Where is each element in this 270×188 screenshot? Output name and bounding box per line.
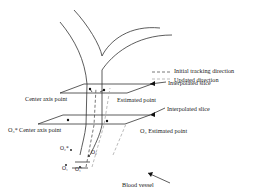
trunk-left — [60, 22, 87, 84]
branch-left-outer — [74, 10, 102, 56]
branch-right-top — [102, 28, 160, 56]
vessel-tracking-diagram: Initial tracking direction Updated direc… — [0, 0, 270, 188]
branch-right-bottom — [102, 35, 172, 70]
label-o1: O₁ — [62, 165, 68, 172]
diagram-drawing — [0, 0, 270, 188]
label-interpolated-slice-mid: Interpolated slice — [167, 105, 210, 112]
label-o1-prime: O₁' — [75, 166, 82, 173]
label-center-axis-point-mid: Center axis point — [19, 126, 61, 133]
label-o2: O₂ — [91, 149, 97, 156]
vessel-left-wall — [80, 84, 87, 155]
label-center-axis-point-top: Center axis point — [25, 95, 67, 102]
label-o2-star: O₂* — [60, 145, 69, 152]
label-interpolated-slice-top: Interpolated slice — [168, 79, 211, 86]
interpolated-slice-top — [60, 84, 152, 93]
label-o3-estimated-point: O₃ Estimated point — [140, 127, 187, 134]
label-estimated-point-top: Estimated point — [117, 96, 156, 103]
legend-initial-direction: Initial tracking direction — [174, 67, 234, 74]
label-blood-vessel: Blood vessel — [122, 181, 154, 188]
vessel-right-wall — [90, 84, 102, 155]
label-o3-star: O₃* — [8, 126, 18, 133]
